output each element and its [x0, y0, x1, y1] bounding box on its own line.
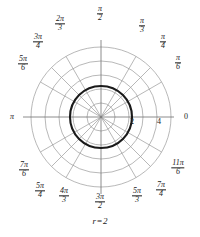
angle-label-7pi-over-4-denominator: 4 [156, 191, 166, 199]
angle-label-2pi-over-3-denominator: 3 [55, 25, 65, 33]
angle-label-pi-over-2: π2 [97, 5, 103, 22]
angle-label-5pi-over-6-denominator: 6 [18, 65, 28, 73]
angle-label-pi-over-2-fraction: π2 [97, 5, 103, 22]
grid-spoke-45 [101, 68, 151, 118]
angle-label-pi-over-6-denominator: 6 [175, 64, 181, 72]
principal-axes [23, 40, 174, 194]
angle-label-2pi-over-3: 2π3 [55, 15, 65, 32]
angle-label-5pi-over-6-fraction: 5π6 [18, 55, 28, 72]
angle-label-11pi-over-6-denominator: 6 [171, 169, 184, 177]
angle-label-3pi-over-2: 3π2 [95, 193, 105, 210]
angle-label-3pi-over-2-denominator: 2 [95, 203, 105, 211]
figure-caption: r=2 [0, 216, 200, 226]
radial-tick-2: 2 [130, 118, 134, 126]
angle-label-pi-over-4-denominator: 4 [160, 43, 166, 51]
angle-label-2pi-over-3-fraction: 2π3 [55, 15, 65, 32]
angle-label-7pi-over-4-fraction: 7π4 [156, 181, 166, 198]
angle-label-7pi-over-6-fraction: 7π6 [19, 161, 29, 178]
angle-label-5pi-over-4: 5π4 [35, 182, 45, 199]
axis-label-zero-right: 0 [184, 113, 188, 121]
angle-label-11pi-over-6: 11π6 [171, 159, 184, 176]
angle-label-4pi-over-3: 4π3 [59, 187, 69, 204]
angle-label-5pi-over-3: 5π3 [132, 187, 142, 204]
angle-label-5pi-over-6: 5π6 [18, 55, 28, 72]
angle-label-5pi-over-3-fraction: 5π3 [132, 187, 142, 204]
axis-label-pi-left-text: π [10, 113, 14, 121]
caption-equals: = [96, 216, 103, 226]
angle-label-7pi-over-4: 7π4 [156, 181, 166, 198]
angle-label-11pi-over-6-fraction: 11π6 [171, 159, 184, 176]
angle-label-pi-over-4: π4 [160, 33, 166, 50]
radial-tick-4: 4 [157, 118, 161, 126]
angle-label-7pi-over-6-denominator: 6 [19, 171, 29, 179]
angle-label-7pi-over-6: 7π6 [19, 161, 29, 178]
grid-spoke-135 [52, 68, 102, 118]
angle-label-pi-over-3-denominator: 3 [139, 27, 145, 35]
angle-label-3pi-over-2-fraction: 3π2 [95, 193, 105, 210]
angle-label-5pi-over-3-denominator: 3 [132, 197, 142, 205]
angle-label-pi-over-4-fraction: π4 [160, 33, 166, 50]
caption-value: 2 [103, 216, 108, 226]
polar-plot-figure: π 0 π2π3π4π62π33π45π67π65π44π33π25π37π41… [0, 0, 200, 237]
grid-spoke-225 [52, 117, 102, 167]
angle-label-pi-over-3: π3 [139, 17, 145, 34]
angle-label-3pi-over-4-fraction: 3π4 [33, 33, 43, 50]
axis-label-zero-right-text: 0 [184, 112, 188, 121]
angle-label-4pi-over-3-fraction: 4π3 [59, 187, 69, 204]
angle-label-pi-over-2-denominator: 2 [97, 15, 103, 23]
angle-label-pi-over-6: π6 [175, 54, 181, 71]
angle-label-pi-over-3-fraction: π3 [139, 17, 145, 34]
angle-label-3pi-over-4: 3π4 [33, 33, 43, 50]
angle-label-5pi-over-4-fraction: 5π4 [35, 182, 45, 199]
angle-label-5pi-over-4-denominator: 4 [35, 192, 45, 200]
grid-spoke-315 [101, 117, 151, 167]
angle-label-4pi-over-3-denominator: 3 [59, 197, 69, 205]
angle-label-pi-over-6-fraction: π6 [175, 54, 181, 71]
axis-label-pi-left: π [10, 113, 14, 121]
angle-label-3pi-over-4-denominator: 4 [33, 43, 43, 51]
